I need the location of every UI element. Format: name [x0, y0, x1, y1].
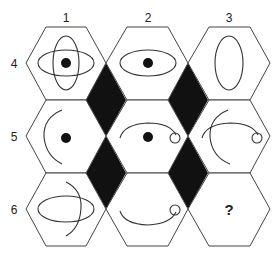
column-label-1: 1 — [63, 11, 70, 25]
hexagon-matrix-puzzle: 1 2 3 4 5 6 — [0, 0, 280, 256]
dot-icon — [61, 58, 71, 68]
dot-icon — [61, 133, 71, 143]
dot-icon — [143, 58, 153, 68]
dot-icon — [143, 132, 153, 142]
row-label-5: 5 — [11, 130, 18, 144]
row-label-6: 6 — [11, 203, 18, 217]
column-label-3: 3 — [226, 11, 233, 25]
missing-answer-question-mark: ? — [224, 201, 233, 218]
row-label-4: 4 — [11, 57, 18, 71]
column-label-2: 2 — [145, 11, 152, 25]
